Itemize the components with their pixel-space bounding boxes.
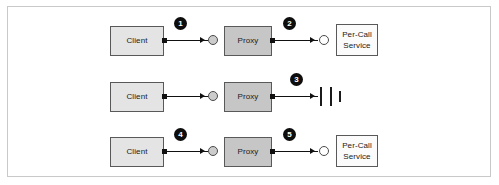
row-3-proxy-to-service-arrowhead-icon: [310, 148, 315, 154]
row-2-proxy-provided-interface-icon: [208, 91, 218, 101]
row-3-proxy-label: Proxy: [238, 147, 259, 157]
row-1-service-provided-interface-icon: [319, 35, 329, 45]
row-1-proxy-to-service-arrowhead-icon: [310, 37, 315, 43]
step-badge-3: 3: [290, 73, 303, 86]
row-2-client-to-proxy-arrowhead-icon: [200, 93, 205, 99]
diagram-figure: Client Proxy Per-Call Service 1 2 Client: [0, 0, 499, 185]
row-1-service-node: Per-Call Service: [336, 24, 378, 56]
row-2-disconnect-tick-icon: [339, 91, 341, 102]
row-3-service-label-line1: Per-Call: [342, 140, 372, 151]
row-3-client-to-proxy-arrowhead-icon: [200, 148, 205, 154]
diagram-canvas: Client Proxy Per-Call Service 1 2 Client: [0, 0, 499, 185]
row-1-client-to-proxy-arrowhead-icon: [200, 37, 205, 43]
row-3-service-node: Per-Call Service: [336, 135, 378, 167]
row-3-service-label-line2: Service: [342, 151, 372, 162]
row-2-disconnect-bar-icon: [320, 87, 322, 106]
row-3-proxy-node: Proxy: [224, 137, 272, 167]
row-3-proxy-provided-interface-icon: [208, 146, 218, 156]
step-badge-2: 2: [283, 17, 296, 30]
row-1-client-node: Client: [110, 26, 164, 56]
row-2-client-node: Client: [110, 82, 164, 112]
row-3-client-node: Client: [110, 137, 164, 167]
row-1-service-label-line2: Service: [342, 40, 372, 51]
row-3-client-label: Client: [126, 147, 147, 157]
step-badge-5: 5: [283, 128, 296, 141]
row-2-client-label: Client: [126, 92, 147, 102]
row-2-proxy-node: Proxy: [224, 82, 272, 112]
step-badge-1: 1: [174, 17, 187, 30]
row-2-disconnect-bar-secondary-icon: [330, 87, 332, 106]
row-1-proxy-provided-interface-icon: [208, 35, 218, 45]
step-badge-4: 4: [174, 128, 187, 141]
row-2-proxy-label: Proxy: [238, 92, 259, 102]
row-1-client-label: Client: [126, 36, 147, 46]
row-1-proxy-node: Proxy: [224, 26, 272, 56]
row-1-service-label-line1: Per-Call: [342, 29, 372, 40]
row-1-proxy-label: Proxy: [238, 36, 259, 46]
row-2-terminated-arrowhead-icon: [310, 93, 315, 99]
row-3-service-provided-interface-icon: [319, 146, 329, 156]
